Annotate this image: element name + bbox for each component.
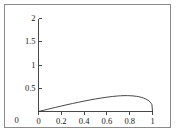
y-tick-label: 1.5 [7,37,36,46]
tick-marks-group [39,19,153,115]
axes-group [39,19,153,112]
data-series-group [39,96,153,112]
plot-area: 00.20.40.60.8100.511.52 [0,0,176,133]
y-tick-label: 0.5 [7,84,36,93]
y-tick-label: 0 [12,116,22,125]
y-tick-label: 1 [7,61,36,70]
x-tick-label: 1 [139,117,167,126]
series-curve [39,96,153,112]
y-tick-label: 2 [7,14,36,23]
